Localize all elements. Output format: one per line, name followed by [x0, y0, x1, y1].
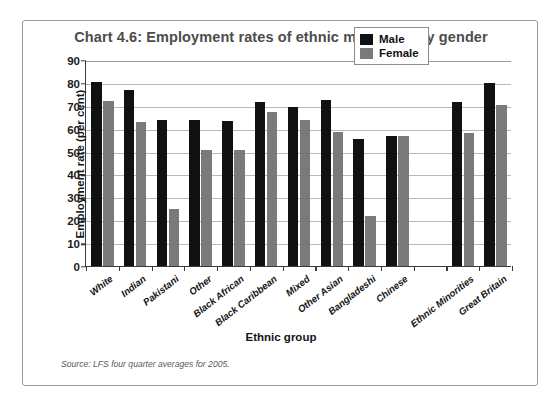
legend-swatch-female-icon — [360, 48, 373, 59]
bar-female — [333, 132, 344, 266]
bar-female — [234, 150, 245, 266]
bar-male — [91, 82, 102, 266]
bar-group — [119, 61, 152, 266]
legend-item-female: Female — [360, 46, 419, 60]
legend-swatch-male-icon — [360, 34, 373, 45]
plot-area: 0102030405060708090 Employment rate (per… — [85, 61, 511, 267]
bar-female — [398, 136, 409, 266]
bar-male — [484, 83, 495, 266]
bar-male — [452, 102, 463, 266]
legend-item-male: Male — [360, 32, 419, 46]
x-tick-mark — [479, 266, 480, 271]
x-tick-mark — [348, 266, 349, 271]
bar-female — [300, 120, 311, 266]
legend: Male Female — [354, 27, 429, 65]
chart-figure: Chart 4.6: Employment rates of ethnic mi… — [22, 20, 538, 386]
bar-female — [201, 150, 212, 266]
y-tick-label: 80 — [67, 78, 80, 90]
x-tick-mark — [184, 266, 185, 271]
bar-group — [250, 61, 283, 266]
source-note: Source: LFS four quarter averages for 20… — [61, 359, 230, 369]
bar-male — [124, 90, 135, 266]
x-tick-mark — [381, 266, 382, 271]
bar-group — [446, 61, 479, 266]
x-axis-label: Ethnic group — [23, 331, 539, 343]
bar-male — [255, 102, 266, 266]
bar-group — [381, 61, 414, 266]
x-tick-mark — [119, 266, 120, 271]
bar-female — [365, 216, 376, 266]
bar-male — [353, 139, 364, 266]
x-tick-mark — [283, 266, 284, 271]
bar-female — [103, 101, 114, 266]
x-tick-mark — [315, 266, 316, 271]
x-tick-mark — [86, 266, 87, 271]
bar-male — [288, 107, 299, 266]
bar-male — [321, 100, 332, 266]
bar-group — [184, 61, 217, 266]
chart-title: Chart 4.6: Employment rates of ethnic mi… — [23, 29, 539, 45]
bar-male — [222, 121, 233, 266]
bar-female — [169, 209, 180, 266]
y-tick-label: 10 — [67, 238, 80, 250]
x-tick-mark — [446, 266, 447, 271]
legend-label-male: Male — [379, 33, 405, 45]
bar-group — [479, 61, 512, 266]
bar-group — [86, 61, 119, 266]
bar-male — [157, 120, 168, 266]
bar-female — [136, 122, 147, 266]
bar-male — [189, 120, 200, 266]
bar-group — [283, 61, 316, 266]
bar-group — [414, 61, 447, 266]
x-tick-label: Mixed — [284, 273, 312, 298]
y-tick-label: 90 — [67, 55, 80, 67]
x-tick-mark — [217, 266, 218, 271]
bar-female — [464, 133, 475, 266]
bar-group — [217, 61, 250, 266]
x-tick-mark — [414, 266, 415, 271]
bar-male — [386, 136, 397, 266]
x-tick-label: Pakistani — [141, 273, 181, 308]
x-tick-mark — [512, 266, 513, 271]
x-tick-label: Chinese — [374, 273, 410, 305]
bar-female — [267, 112, 278, 267]
y-tick-label: 0 — [74, 261, 80, 273]
x-tick-mark — [152, 266, 153, 271]
bar-group — [315, 61, 348, 266]
bar-female — [496, 105, 507, 266]
bar-group — [348, 61, 381, 266]
x-tick-label: White — [88, 273, 115, 298]
bar-group — [152, 61, 185, 266]
legend-label-female: Female — [379, 47, 419, 59]
y-axis-label: Employment rate (per cent) — [74, 89, 86, 238]
x-tick-label: Other — [187, 273, 214, 297]
x-tick-mark — [250, 266, 251, 271]
